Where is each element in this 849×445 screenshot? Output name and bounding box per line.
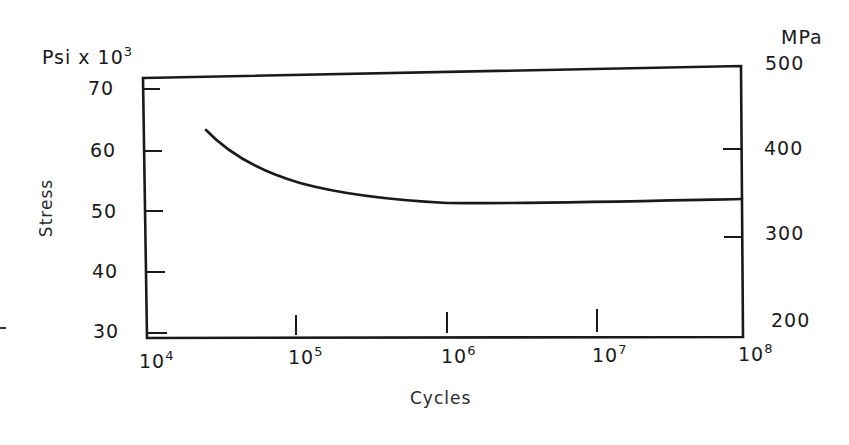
plot-area — [0, 0, 849, 445]
sn-curve-line — [206, 130, 742, 203]
right-y-ticks — [723, 149, 743, 237]
x-ticks — [296, 309, 597, 335]
